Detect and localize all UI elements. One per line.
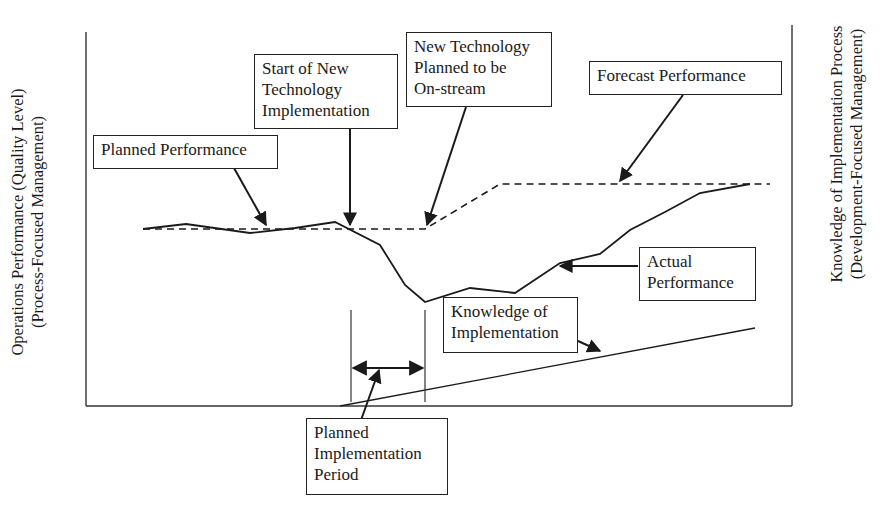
left-axis-label: Operations Performance (Quality Level) (… (8, 57, 52, 387)
arrow-planned-performance (234, 168, 266, 225)
callout-start-implementation: Start of New Technology Implementation (254, 54, 398, 129)
callout-planned-implementation-period: Planned Implementation Period (306, 418, 448, 495)
callout-planned-onstream: New Technology Planned to be On-stream (406, 32, 552, 107)
arrow-knowledge (578, 341, 600, 351)
callout-forecast-performance: Forecast Performance (589, 61, 782, 95)
callout-knowledge-of-implementation: Knowledge of Implementation (443, 297, 578, 353)
arrow-planned-onstream (427, 107, 466, 225)
callout-planned-performance: Planned Performance (93, 135, 278, 169)
arrow-forecast-performance (620, 95, 683, 181)
right-axis-label: Knowledge of Implementation Process (Dev… (827, 0, 871, 319)
callout-actual-performance: Actual Performance (639, 247, 756, 301)
